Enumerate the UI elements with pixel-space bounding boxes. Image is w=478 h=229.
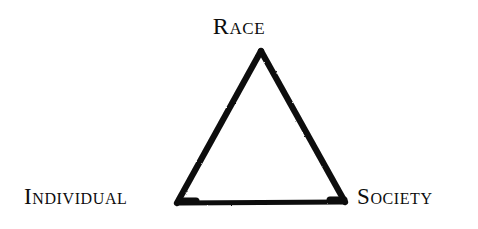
triangle-edge-base: [177, 202, 345, 203]
vertex-label-race: Race: [0, 14, 478, 38]
triangle-edge-right: [261, 51, 345, 202]
vertex-label-individual: Individual: [24, 185, 127, 208]
vertex-label-society: Society: [357, 185, 433, 208]
triangle-diagram-figure: Race Individual Society: [0, 0, 478, 229]
triangle-edge-left: [177, 51, 261, 203]
